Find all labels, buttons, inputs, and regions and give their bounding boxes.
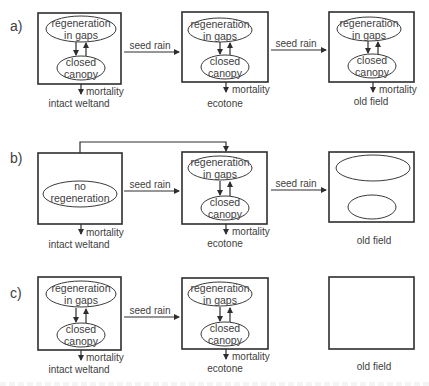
state-box [329, 152, 414, 222]
ellipse-label: regeneration [191, 156, 250, 168]
seed-rain-label: seed rain [275, 178, 316, 189]
ellipse-label: canopy [64, 335, 99, 347]
ellipse-label: closed [66, 56, 97, 68]
panel-label: a) [10, 18, 22, 34]
ellipse-label: regeneration [340, 17, 399, 29]
ellipse-label: in gaps [203, 30, 237, 42]
panel-b: b) no regeneration mortality intact welt… [10, 142, 414, 250]
mortality-label: mortality [232, 84, 270, 95]
seed-rain-label: seed rain [129, 305, 170, 316]
ellipse-label: canopy [208, 208, 243, 220]
state-name: ecotone [207, 363, 243, 374]
mortality-label: mortality [86, 227, 124, 238]
ellipse-label: regeneration [191, 282, 250, 294]
state-old-field: old field [329, 277, 414, 372]
panel-a: a) regeneration in gaps closed canopy mo… [10, 12, 417, 109]
seed-rain-label: seed rain [275, 38, 316, 49]
cut-off-caption [0, 382, 429, 386]
mortality-label: mortality [232, 351, 270, 362]
ellipse-label: canopy [208, 334, 243, 346]
state-name: intact weltand [48, 239, 109, 250]
ellipse-label: no [74, 180, 86, 192]
state-name: old field [354, 96, 388, 107]
ellipse-label: in gaps [352, 29, 386, 41]
ellipse-label: regeneration [191, 18, 250, 30]
ellipse-label: closed [210, 196, 241, 208]
mortality-label: mortality [232, 226, 270, 237]
state-ecotone: regeneration in gaps closed canopy morta… [182, 278, 270, 374]
state-old-field: old field [329, 152, 414, 246]
panel-label: b) [10, 150, 22, 166]
state-ecotone: regeneration in gaps closed canopy morta… [182, 12, 270, 109]
ellipse-label: regeneration [52, 17, 111, 29]
state-name: old field [357, 235, 391, 246]
state-name: ecotone [207, 98, 243, 109]
empty-ellipse [336, 155, 410, 181]
ellipse-label: closed [210, 322, 241, 334]
ellipse-label: in gaps [64, 29, 98, 41]
state-name: intact weltand [48, 364, 109, 375]
ellipse-label: regeneration [52, 282, 111, 294]
state-intact-wetland: no regeneration mortality intact weltand [38, 153, 124, 250]
mortality-label: mortality [379, 84, 417, 95]
state-intact-wetland: regeneration in gaps closed canopy morta… [38, 277, 124, 375]
panel-label: c) [10, 285, 22, 301]
mortality-label: mortality [86, 86, 124, 97]
ellipse-label: closed [357, 54, 388, 66]
empty-ellipse [348, 195, 396, 219]
state-ecotone: regeneration in gaps closed canopy morta… [182, 152, 270, 249]
state-intact-wetland: regeneration in gaps closed canopy morta… [38, 13, 124, 109]
mortality-label: mortality [86, 352, 124, 363]
panel-c: c) regeneration in gaps closed canopy mo… [10, 277, 414, 375]
state-name: ecotone [207, 238, 243, 249]
succession-diagram: a) regeneration in gaps closed canopy mo… [0, 0, 429, 386]
state-name: old field [357, 361, 391, 372]
ellipse-label: closed [210, 55, 241, 67]
ellipse-label: canopy [64, 68, 99, 80]
ellipse-label: canopy [208, 67, 243, 79]
ellipse-label: in gaps [64, 294, 98, 306]
state-old-field: regeneration in gaps closed canopy morta… [329, 12, 417, 107]
ellipse-label: in gaps [203, 294, 237, 306]
state-box [329, 277, 414, 349]
ellipse-label: closed [66, 323, 97, 335]
ellipse-label: canopy [355, 66, 390, 78]
seed-rain-label: seed rain [129, 40, 170, 51]
ellipse-label: regeneration [51, 192, 110, 204]
seed-rain-label: seed rain [129, 179, 170, 190]
state-name: intact weltand [48, 98, 109, 109]
ellipse-label: in gaps [203, 168, 237, 180]
